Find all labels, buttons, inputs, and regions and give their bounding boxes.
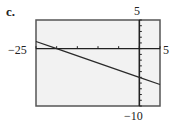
y-min-label: −10 (124, 110, 143, 122)
x-max-label: 5 (163, 44, 169, 56)
y-max-label: 5 (134, 5, 140, 17)
graph-window (0, 0, 176, 125)
x-min-label: −25 (8, 44, 27, 56)
